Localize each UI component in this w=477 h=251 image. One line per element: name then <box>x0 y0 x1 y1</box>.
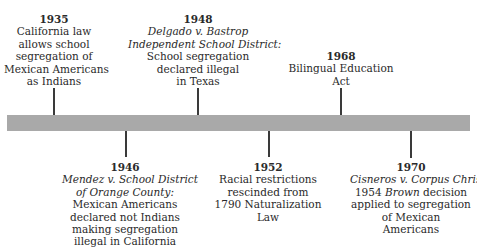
event-1952: 1952 Racial restrictions rescinded from … <box>213 161 323 223</box>
event-text: Mexican Americans <box>62 198 188 210</box>
event-text: of Mexican <box>350 211 472 223</box>
case-name: of Orange County: <box>62 186 188 198</box>
event-text: Bilingual Education <box>286 62 396 74</box>
event-text: 1954 Brown decision <box>350 186 472 198</box>
event-1935: 1935 California law allows school segreg… <box>4 13 104 87</box>
event-text: applied to segregation <box>350 198 472 210</box>
event-text: as Indians <box>4 75 104 87</box>
event-text: rescinded from <box>213 186 323 198</box>
event-year: 1935 <box>4 13 104 25</box>
tick-1968 <box>340 88 342 115</box>
event-1968: 1968 Bilingual Education Act <box>286 50 396 87</box>
event-text: allows school <box>4 38 104 50</box>
case-name: Delgado v. Bastrop <box>128 25 268 37</box>
event-text: School segregation <box>128 50 268 62</box>
tick-1970 <box>410 131 412 158</box>
event-text: in Texas <box>128 75 268 87</box>
tick-1948 <box>197 88 199 115</box>
event-1948: 1948 Delgado v. Bastrop Independent Scho… <box>128 13 268 87</box>
event-text: Racial restrictions <box>213 173 323 185</box>
event-text: 1790 Naturalization <box>213 198 323 210</box>
event-text: California law <box>4 25 104 37</box>
event-text: making segregation <box>62 223 188 235</box>
event-year: 1946 <box>62 161 188 173</box>
event-text: declared not Indians <box>62 211 188 223</box>
event-text-part: decision <box>420 186 467 198</box>
event-1946: 1946 Mendez v. School District of Orange… <box>62 161 188 248</box>
timeline-bar <box>7 115 470 131</box>
event-text: Law <box>213 211 323 223</box>
event-text: declared illegal <box>128 63 268 75</box>
event-text: Mexican Americans <box>4 63 104 75</box>
event-text: segregation of <box>4 50 104 62</box>
event-text: Americans <box>350 223 472 235</box>
event-text-part: 1954 <box>355 186 385 198</box>
case-name: Mendez v. School District <box>62 173 188 185</box>
case-name: Cisneros v. Corpus Christi: <box>350 173 472 185</box>
event-text: illegal in California <box>62 235 188 247</box>
event-year: 1968 <box>286 50 396 62</box>
tick-1946 <box>125 131 127 157</box>
event-year: 1952 <box>213 161 323 173</box>
case-name: Independent School District: <box>128 38 268 50</box>
case-name-brown: Brown <box>385 186 420 198</box>
tick-1952 <box>268 131 270 157</box>
tick-1935 <box>53 88 55 115</box>
event-text: Act <box>286 75 396 87</box>
event-year: 1948 <box>128 13 268 25</box>
event-year: 1970 <box>350 161 472 173</box>
event-1970: 1970 Cisneros v. Corpus Christi: 1954 Br… <box>350 161 472 235</box>
